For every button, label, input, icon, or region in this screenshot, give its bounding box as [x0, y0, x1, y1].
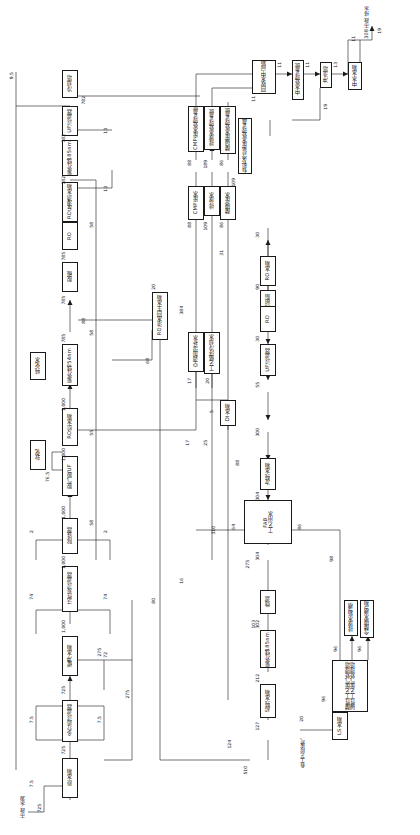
stream-number: 17 — [188, 378, 193, 384]
box-acid-alkali-exhaust-scrubbers[interactable]: 酸性工艺废气处理塔 碱性工艺废气处理塔 — [332, 660, 368, 712]
box-acid-alkali-water-tank-2[interactable]: 含酸碱水槽/箱 — [360, 600, 374, 638]
stream-number: 13 — [334, 62, 339, 68]
box-iron-removal[interactable]: 除铁器 — [62, 518, 78, 554]
box-purified-water[interactable]: 纯化水 — [30, 352, 46, 380]
box-label: UF过滤器 — [265, 349, 271, 372]
box-uv-185nm[interactable]: 紫外线185nm — [62, 140, 78, 176]
box-discharge-water-tank-2[interactable]: 排放水箱/槽 — [344, 600, 358, 636]
box-label: 原水箱 — [67, 770, 73, 786]
stream-number: 300 — [256, 428, 261, 437]
box-label: 脱碳 — [67, 272, 73, 282]
box-reclaimed-water-tank[interactable]: 中水水箱 — [348, 62, 362, 90]
stream-number: 30 — [256, 232, 261, 238]
stream-number: 384 — [180, 306, 185, 315]
stream-number: 88 — [236, 460, 241, 466]
stream-number: 9.5 — [10, 72, 15, 79]
stream-number: 96 — [334, 646, 339, 652]
box-flush-tower[interactable]: 冲洗塔 — [320, 62, 332, 88]
process-flow-diagram: 原水箱 多介质过滤器 缓冲水箱 活性炭过滤器 除铁器 脱气膜/UF 软化 RO给… — [0, 0, 420, 835]
box-acid-alkali-treatment-system[interactable]: 酸碱废水处理系统 — [220, 106, 236, 154]
box-reclaimed-treatment-system[interactable]: 中水处理系统 — [292, 60, 304, 100]
box-degas-uf[interactable]: 脱气膜/UF — [62, 456, 78, 496]
stream-number: 20 — [300, 716, 305, 722]
box-decarbonator[interactable]: 脱碳 — [62, 262, 78, 292]
box-label: 缓冲水箱 — [67, 646, 73, 667]
box-activated-carbon-filter[interactable]: 活性炭过滤器 — [62, 566, 78, 612]
box-label: 空调加湿补水 — [193, 336, 199, 367]
box-label: 排放水 — [209, 193, 215, 209]
box-label: 微滤 — [265, 597, 271, 607]
box-uf-filter-top[interactable]: UF过滤器 — [62, 106, 78, 136]
box-cmp-waste-water[interactable]: CMP废水 — [188, 186, 204, 220]
stream-number: 25 — [204, 440, 209, 446]
box-ro-feed-tank[interactable]: RO给水箱 — [62, 408, 78, 446]
box-label: RO反渗透水箱 — [67, 185, 73, 219]
stream-number: 88 — [188, 222, 193, 228]
box-uv-254nm[interactable]: 紫外线254nm — [62, 344, 78, 386]
stream-number: 785 — [62, 334, 67, 343]
box-label: 中水处理系统 — [295, 64, 301, 95]
stream-number: 11 — [278, 62, 283, 68]
stream-number: 64 — [232, 524, 237, 530]
box-ro-water-tank[interactable]: RO水箱 — [260, 256, 276, 286]
stream-number: 1,000 — [62, 620, 67, 633]
box-ro-unit-1[interactable]: RO — [62, 222, 78, 250]
box-di-water-tank[interactable]: DI水箱 — [220, 400, 236, 426]
box-recycled-water-tank[interactable]: 回收水中间箱 — [252, 60, 276, 94]
box-multimedia-filter[interactable]: 多介质过滤器 — [62, 700, 78, 742]
stream-number: 304 — [256, 552, 261, 561]
box-cooling-tower[interactable]: 冷却塔 — [62, 70, 78, 98]
box-uf-filter-mid[interactable]: UF过滤器 — [260, 344, 276, 376]
stream-number: 1,000 — [62, 448, 67, 461]
stream-number: 86 — [298, 524, 303, 530]
stream-number: 725 — [38, 804, 43, 813]
stream-number: 1,000 — [62, 506, 67, 519]
box-label: 冲洗塔 — [323, 67, 329, 83]
box-secondary-pure-water-tank[interactable]: 次纯水箱 — [260, 458, 276, 490]
box-ls-water-tank[interactable]: LS水箱 — [332, 712, 348, 740]
stream-number: 1,000 — [62, 556, 67, 569]
box-discharge-water[interactable]: 排放水 — [204, 186, 220, 216]
box-label: 排放水处理系统 — [209, 110, 215, 146]
box-label: 工艺循环冷却水 — [209, 335, 215, 371]
box-raw-water-tank[interactable]: 原水箱 — [62, 758, 78, 798]
box-label: 紫外线254nm — [67, 348, 73, 383]
stream-number: 19 — [324, 104, 329, 110]
box-label: 纯化水 — [35, 358, 41, 374]
stream-number: 58 — [90, 222, 95, 228]
stream-number: 80 — [152, 598, 157, 604]
box-ro-concentrate-reuse-tank[interactable]: RO浓水回生水箱 — [152, 292, 168, 340]
box-discharge-water-treatment-system[interactable]: 排放水处理系统 — [204, 106, 220, 150]
box-ro-unit-2[interactable]: RO — [260, 306, 276, 332]
box-label: 多介质过滤器 — [67, 705, 73, 736]
stream-number: 275 — [246, 560, 251, 569]
box-label: 酸碱废水处理系统 — [225, 109, 231, 151]
box-softener[interactable]: 软化 — [30, 440, 46, 470]
box-acid-alkali-waste[interactable]: 酸碱废水 — [220, 186, 236, 220]
stream-number: 275 — [126, 690, 131, 699]
sink-municipal-discharge-label: 308 市政 排水 — [364, 6, 370, 39]
box-ro-permeate-tank[interactable]: RO反渗透水箱 — [62, 182, 78, 222]
stream-number: 725 — [62, 686, 67, 695]
box-fab-process-water[interactable]: FAB 工艺用水 — [244, 500, 292, 544]
stream-number: 103 — [252, 620, 257, 629]
stream-number: 90 — [256, 284, 261, 290]
box-uv-185nm-secondary[interactable]: 紫外线185nm — [260, 630, 276, 668]
stream-number: 16 — [180, 578, 185, 584]
stream-number: 17 — [186, 440, 191, 446]
box-organic-ammonia-treatment-system[interactable]: 有机及含氨废水处理系统 — [238, 118, 252, 174]
box-micro-filter[interactable]: 微滤 — [260, 590, 276, 614]
stream-number: 2 — [104, 530, 109, 533]
stream-number: 76.5 — [46, 472, 51, 482]
box-cmp-waste-treatment-system[interactable]: CMP废水处理系统 — [188, 106, 204, 152]
box-ultrapure-water-tank[interactable]: 超纯水箱 — [260, 684, 276, 718]
stream-number: 109 — [232, 178, 237, 187]
box-buffer-tank[interactable]: 缓冲水箱 — [62, 636, 78, 676]
stream-number: 74 — [30, 594, 35, 600]
stream-number: 55 — [256, 382, 261, 388]
stream-number: 11 — [352, 36, 357, 42]
box-hvac-humidification-makeup[interactable]: 空调加湿补水 — [188, 332, 204, 372]
box-label: RO浓水回生水箱 — [157, 296, 163, 335]
box-process-cooling-water[interactable]: 工艺循环冷却水 — [204, 332, 220, 374]
stream-number: 725 — [62, 746, 67, 755]
